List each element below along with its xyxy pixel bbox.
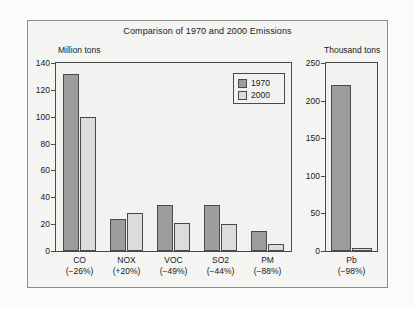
y-tick-label: 120 (26, 85, 50, 95)
bar-pb-2000 (352, 248, 372, 251)
legend-label-1970: 1970 (251, 78, 270, 88)
y-tick-mark (321, 101, 325, 102)
bar-co-2000 (80, 117, 97, 251)
y-tick-mark (321, 176, 325, 177)
legend-entry-1970: 1970 (238, 77, 284, 89)
legend-label-2000: 2000 (251, 90, 270, 100)
chart-title: Comparison of 1970 and 2000 Emissions (27, 26, 388, 36)
y-tick-mark (51, 251, 55, 252)
y-tick-label: 250 (296, 58, 320, 68)
left-axis-unit-label: Million tons (58, 45, 101, 55)
x-axis-label-pm: PM(−88%) (244, 255, 291, 277)
y-tick-mark (321, 63, 325, 64)
bar-co-1970 (63, 74, 80, 251)
x-axis-label-so2: SO2(−44%) (197, 255, 244, 277)
y-tick-label: 100 (26, 112, 50, 122)
x-label-change: (−26%) (56, 266, 103, 277)
y-tick-mark (321, 251, 325, 252)
legend-swatch-2000-icon (238, 91, 247, 100)
legend-entry-2000: 2000 (238, 89, 284, 101)
bar-voc-2000 (174, 223, 191, 251)
right-bars-container (326, 63, 377, 251)
bar-voc-1970 (157, 205, 174, 251)
y-tick-label: 0 (296, 246, 320, 256)
y-tick-mark (321, 138, 325, 139)
bar-nox-2000 (127, 213, 144, 251)
y-tick-mark (51, 144, 55, 145)
x-label-category: PM (261, 255, 274, 265)
x-label-change: (−98%) (326, 266, 377, 277)
x-label-category: NOX (117, 255, 135, 265)
right-plot-area (325, 62, 378, 252)
bar-pm-1970 (251, 231, 268, 251)
x-axis-label-nox: NOX(+20%) (103, 255, 150, 277)
y-tick-mark (51, 170, 55, 171)
bar-so2-2000 (221, 224, 238, 251)
x-label-change: (−44%) (197, 266, 244, 277)
chart-legend: 1970 2000 (233, 73, 285, 104)
x-axis-label-co: CO(−26%) (56, 255, 103, 277)
y-tick-mark (51, 63, 55, 64)
y-tick-label: 100 (296, 171, 320, 181)
legend-swatch-1970-icon (238, 79, 247, 88)
y-tick-mark (51, 117, 55, 118)
x-axis-label-pb: Pb(−98%) (326, 255, 377, 277)
y-tick-mark (51, 224, 55, 225)
y-tick-label: 80 (26, 139, 50, 149)
x-label-category: CO (73, 255, 86, 265)
chart-figure: Comparison of 1970 and 2000 Emissions Mi… (0, 0, 414, 309)
x-label-change: (−49%) (150, 266, 197, 277)
x-axis-label-voc: VOC(−49%) (150, 255, 197, 277)
bar-pb-1970 (331, 85, 351, 251)
x-label-change: (+20%) (103, 266, 150, 277)
bar-nox-1970 (110, 219, 127, 251)
x-label-category: Pb (346, 255, 356, 265)
bar-so2-1970 (204, 205, 221, 251)
y-tick-label: 60 (26, 165, 50, 175)
x-label-change: (−88%) (244, 266, 291, 277)
y-tick-mark (51, 90, 55, 91)
y-tick-label: 20 (26, 219, 50, 229)
y-tick-label: 40 (26, 192, 50, 202)
right-axis-unit-label: Thousand tons (324, 45, 380, 55)
y-tick-label: 200 (296, 96, 320, 106)
y-tick-mark (51, 197, 55, 198)
y-tick-label: 50 (296, 208, 320, 218)
y-tick-label: 140 (26, 58, 50, 68)
x-label-category: VOC (164, 255, 182, 265)
y-tick-label: 150 (296, 133, 320, 143)
x-label-category: SO2 (212, 255, 229, 265)
y-tick-label: 0 (26, 246, 50, 256)
y-tick-mark (321, 213, 325, 214)
bar-pm-2000 (268, 244, 285, 251)
